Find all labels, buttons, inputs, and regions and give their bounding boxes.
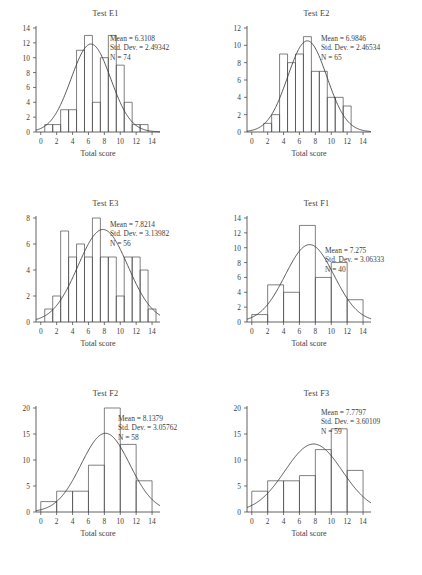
stat-std-dev: Std. Dev. = 3.60109 (321, 417, 380, 426)
x-axis-title: Total score (36, 149, 160, 158)
histogram-panel-test-f2: Test F20510152002468101214Mean = 8.1379S… (0, 380, 211, 575)
histogram-bar (88, 465, 104, 512)
histogram-bar (57, 491, 73, 512)
histogram-panel-test-f1: Test F10246810121402468101214Mean = 7.27… (211, 190, 422, 380)
stats-annotation: Mean = 6.3108Std. Dev. = 2.49342N = 74 (110, 34, 169, 62)
stat-mean: Mean = 6.9846 (321, 34, 380, 43)
histogram-bar (73, 491, 89, 512)
histogram-bar (53, 125, 61, 132)
stats-annotation: Mean = 7.275Std. Dev. = 3.06333N = 40 (325, 246, 384, 274)
stat-std-dev: Std. Dev. = 3.13982 (110, 229, 169, 238)
x-axis-title: Total score (247, 529, 371, 538)
histogram-bar (120, 444, 136, 512)
normal-distribution-curve (36, 433, 160, 510)
histogram-bar (100, 257, 108, 322)
histogram-bar (140, 270, 148, 322)
histogram-bar (347, 300, 363, 322)
stat-n: N = 65 (321, 53, 380, 62)
stat-std-dev: Std. Dev. = 3.06333 (325, 255, 384, 264)
histogram-bar (268, 481, 284, 512)
histogram-bar (268, 285, 284, 322)
histogram-bar (92, 218, 100, 322)
histogram-bar (252, 315, 268, 322)
histogram-bar (92, 102, 100, 132)
stat-n: N = 59 (321, 427, 380, 436)
histogram-bar (311, 71, 319, 132)
histogram-panel-test-e2: Test E202468101202468101214Mean = 6.9846… (211, 0, 422, 190)
histogram-bar (343, 106, 351, 132)
histogram-bar (77, 244, 85, 322)
x-axis-title: Total score (36, 529, 160, 538)
plot-area (0, 190, 211, 340)
histogram-bar (69, 257, 77, 322)
stat-mean: Mean = 6.3108 (110, 34, 169, 43)
x-axis-title: Total score (247, 149, 371, 158)
histogram-bar (303, 37, 311, 132)
stats-annotation: Mean = 7.7797Std. Dev. = 3.60109N = 59 (321, 408, 380, 436)
plot-area (0, 0, 211, 150)
stat-n: N = 58 (118, 433, 177, 442)
histogram-panel-grid: Test E10246810121402468101214Mean = 6.31… (0, 0, 422, 575)
histogram-bar (272, 115, 280, 132)
histogram-bar (61, 231, 69, 322)
histogram-bar (252, 491, 268, 512)
histogram-bar (347, 470, 363, 512)
histogram-bar (116, 296, 124, 322)
stat-mean: Mean = 7.8214 (110, 220, 169, 229)
histogram-bar (299, 476, 315, 512)
histogram-bar (108, 257, 116, 322)
histogram-bar (84, 257, 92, 322)
stat-mean: Mean = 7.7797 (321, 408, 380, 417)
histogram-bar (315, 277, 331, 322)
stat-mean: Mean = 8.1379 (118, 414, 177, 423)
stats-annotation: Mean = 8.1379Std. Dev. = 3.05762N = 58 (118, 414, 177, 442)
plot-area (0, 380, 211, 530)
stat-mean: Mean = 7.275 (325, 246, 384, 255)
histogram-bar (315, 450, 331, 512)
histogram-bar (284, 292, 300, 322)
histogram-bar (319, 71, 327, 132)
histogram-panel-test-e1: Test E10246810121402468101214Mean = 6.31… (0, 0, 211, 190)
histogram-panel-test-f3: Test F30510152002468101214Mean = 7.7797S… (211, 380, 422, 575)
stat-n: N = 74 (110, 53, 169, 62)
histogram-bar (84, 35, 92, 132)
histogram-bar (61, 110, 69, 132)
histogram-bar (280, 54, 288, 132)
stat-std-dev: Std. Dev. = 2.49342 (110, 43, 169, 52)
histogram-bar (295, 54, 303, 132)
histogram-bar (299, 225, 315, 322)
histogram-bar (284, 481, 300, 512)
stat-n: N = 40 (325, 265, 384, 274)
plot-area (211, 190, 422, 340)
histogram-bar (327, 97, 335, 132)
stat-n: N = 56 (110, 239, 169, 248)
x-axis-title: Total score (247, 339, 371, 348)
x-axis-title: Total score (36, 339, 160, 348)
histogram-panel-test-e3: Test E30246802468101214Mean = 7.8214Std.… (0, 190, 211, 380)
stat-std-dev: Std. Dev. = 2.46534 (321, 43, 380, 52)
histogram-bar (264, 123, 272, 132)
histogram-bar (331, 429, 347, 512)
stat-std-dev: Std. Dev. = 3.05762 (118, 423, 177, 432)
stats-annotation: Mean = 6.9846Std. Dev. = 2.46534N = 65 (321, 34, 380, 62)
histogram-bar (116, 65, 124, 132)
plot-area (211, 0, 422, 150)
stats-annotation: Mean = 7.8214Std. Dev. = 3.13982N = 56 (110, 220, 169, 248)
plot-area (211, 380, 422, 530)
histogram-bar (69, 110, 77, 132)
